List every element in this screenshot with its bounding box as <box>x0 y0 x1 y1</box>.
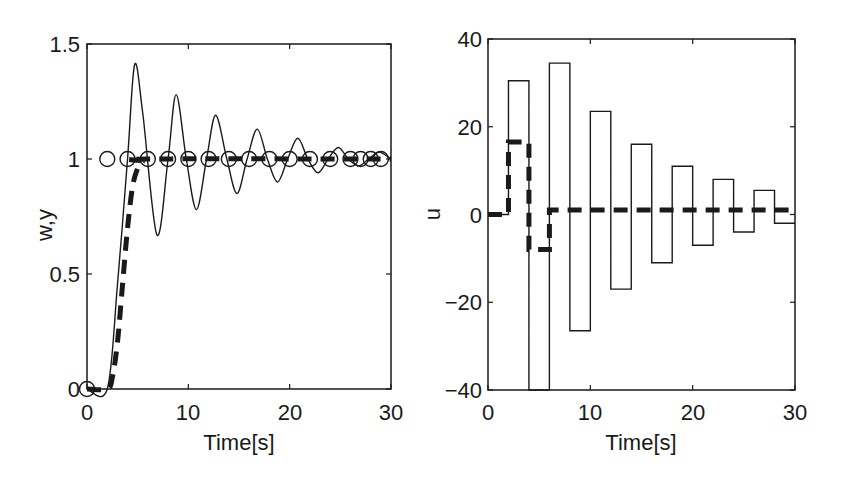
series-w-circle-marker <box>100 152 115 167</box>
series-u-solid-step <box>488 63 795 390</box>
right-xtick-20: 20 <box>681 400 705 425</box>
left-plot-w-y: 1.5 1 0.5 0 0 10 20 30 Time[s] w,y <box>32 32 403 455</box>
right-ytick-0: 0 <box>470 203 482 228</box>
left-ytick-1: 1 <box>68 147 80 172</box>
right-xtick-0: 0 <box>482 400 494 425</box>
left-ytick-0.5: 0.5 <box>49 262 80 287</box>
series-y-dashed-line <box>87 159 391 390</box>
right-xlabel: Time[s] <box>605 430 676 455</box>
left-xtick-20: 20 <box>278 400 302 425</box>
left-ytick-1.5: 1.5 <box>49 32 80 57</box>
right-xtick-10: 10 <box>578 400 602 425</box>
right-ytick-minus-40: −40 <box>445 378 482 403</box>
left-xlabel: Time[s] <box>203 430 274 455</box>
left-plot-frame <box>87 44 391 389</box>
left-xtick-30: 30 <box>379 400 403 425</box>
right-ytick-40: 40 <box>458 27 482 52</box>
series-u-dashed-step <box>488 142 795 249</box>
left-xtick-0: 0 <box>81 400 93 425</box>
series-y-solid-line <box>87 63 391 396</box>
right-ytick-20: 20 <box>458 115 482 140</box>
right-plot-frame <box>488 39 795 390</box>
right-xtick-30: 30 <box>783 400 807 425</box>
figure: 1.5 1 0.5 0 0 10 20 30 Time[s] w,y 40 20… <box>0 0 843 484</box>
left-ytick-0: 0 <box>68 377 80 402</box>
left-xtick-10: 10 <box>176 400 200 425</box>
right-ylabel: u <box>420 208 445 220</box>
right-ytick-minus-20: −20 <box>445 290 482 315</box>
right-plot-u: 40 20 0 −20 −40 0 10 20 30 Time[s] u <box>420 27 807 455</box>
left-ylabel: w,y <box>32 209 57 242</box>
